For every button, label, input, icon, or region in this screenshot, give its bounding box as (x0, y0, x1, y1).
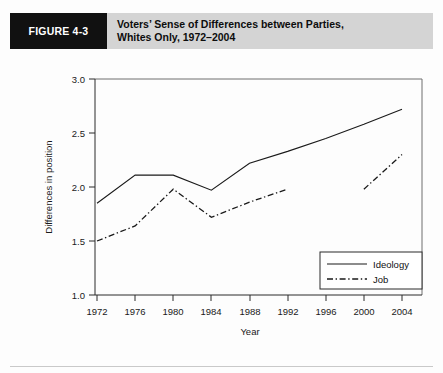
series-job-line (97, 189, 288, 241)
legend-label-ideology: Ideology (373, 259, 409, 270)
x-axis-title: Year (240, 326, 259, 337)
x-tick-labels: 1972 1976 1980 1984 1988 1992 1996 2000 … (86, 306, 412, 317)
series-job-line-late (364, 155, 402, 190)
y-tick-labels: 1.0 1.5 2.0 2.5 3.0 (72, 74, 85, 301)
figure-page: FIGURE 4-3 Voters’ Sense of Differences … (0, 0, 443, 373)
y-tick-marks (89, 79, 95, 295)
y-tick-label-4: 2.5 (72, 128, 85, 139)
y-axis-title: Differences in position (43, 140, 54, 233)
x-tick-label-1972: 1972 (86, 306, 107, 317)
series-ideology-line (97, 109, 402, 203)
figure-title: Voters’ Sense of Differences between Par… (107, 13, 433, 49)
chart-legend: Ideology Job (320, 252, 422, 289)
x-tick-marks (97, 295, 402, 301)
x-tick-label-2000: 2000 (353, 306, 374, 317)
x-tick-label-1988: 1988 (239, 306, 260, 317)
x-tick-label-1976: 1976 (124, 306, 145, 317)
page-bottom-rule (10, 366, 433, 367)
y-tick-label-5: 3.0 (72, 74, 85, 85)
figure-header: FIGURE 4-3 Voters’ Sense of Differences … (10, 13, 433, 49)
x-tick-label-2004: 2004 (391, 306, 412, 317)
line-chart: 1.0 1.5 2.0 2.5 3.0 1972 1976 (0, 49, 443, 359)
y-tick-label-3: 2.0 (72, 182, 85, 193)
chart-container: 1.0 1.5 2.0 2.5 3.0 1972 1976 (0, 49, 443, 359)
y-tick-label-1: 1.0 (72, 290, 85, 301)
legend-label-job: Job (373, 274, 388, 285)
figure-number-tag: FIGURE 4-3 (10, 13, 107, 49)
x-tick-label-1980: 1980 (162, 306, 183, 317)
x-tick-label-1984: 1984 (200, 306, 221, 317)
figure-title-line-2: Whites Only, 1972–2004 (117, 31, 344, 45)
x-tick-label-1996: 1996 (315, 306, 336, 317)
y-tick-label-2: 1.5 (72, 236, 85, 247)
x-tick-label-1992: 1992 (277, 306, 298, 317)
figure-title-line-1: Voters’ Sense of Differences between Par… (117, 18, 344, 32)
